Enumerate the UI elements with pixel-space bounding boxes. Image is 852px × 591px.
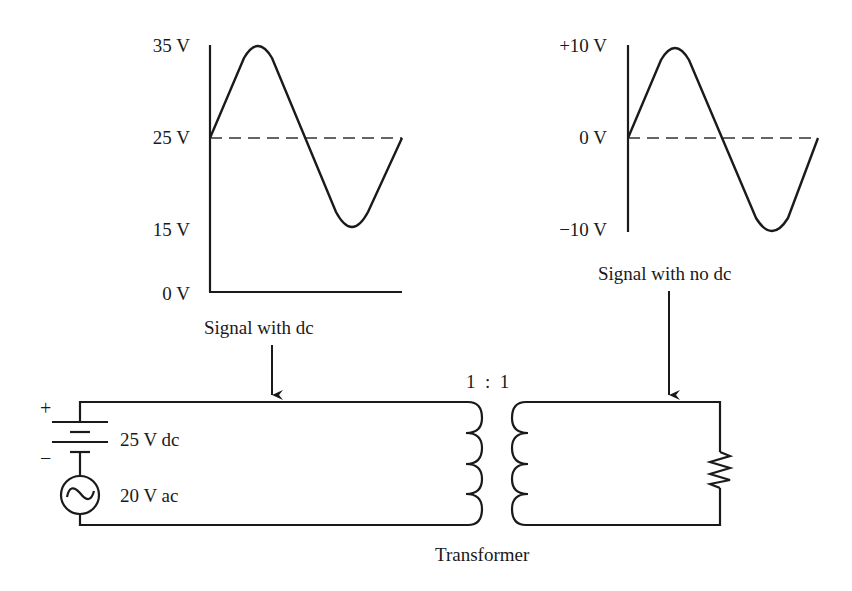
primary-coil-icon <box>466 402 482 525</box>
primary-circuit <box>52 402 482 525</box>
left-tick-15v: 15 V <box>130 220 190 239</box>
battery-plus-label: + <box>40 398 51 418</box>
left-signal-wave <box>210 46 402 227</box>
battery-minus-label: − <box>40 448 51 468</box>
secondary-coil-icon <box>512 402 528 525</box>
right-signal-wave <box>628 48 818 231</box>
secondary-circuit <box>512 402 730 525</box>
transformer-label: Transformer <box>435 545 529 564</box>
sine-glyph-icon <box>67 488 94 499</box>
secondary-loop-wire <box>526 402 720 452</box>
right-graph <box>628 45 818 232</box>
transformer-ratio-label: 1 : 1 <box>466 372 509 391</box>
left-graph <box>209 45 402 292</box>
right-graph-caption: Signal with no dc <box>598 264 732 283</box>
ac-source-label: 20 V ac <box>120 486 178 505</box>
left-graph-caption: Signal with dc <box>204 318 314 337</box>
left-tick-25v: 25 V <box>130 128 190 147</box>
right-tick-minus10v: −10 V <box>530 220 607 239</box>
left-tick-35v: 35 V <box>130 36 190 55</box>
right-tick-plus10v: +10 V <box>530 36 607 55</box>
right-tick-0v: 0 V <box>530 128 607 147</box>
primary-top-wire <box>80 402 468 422</box>
resistor-icon <box>710 452 730 488</box>
left-tick-0v: 0 V <box>130 284 190 303</box>
primary-bottom-wire <box>80 514 468 525</box>
dc-source-label: 25 V dc <box>120 430 179 449</box>
secondary-bottom-wire <box>526 488 720 525</box>
